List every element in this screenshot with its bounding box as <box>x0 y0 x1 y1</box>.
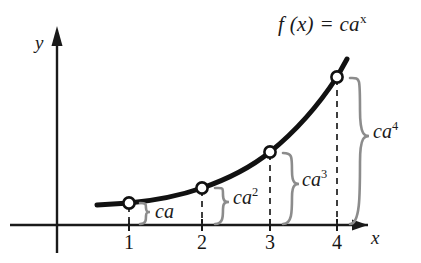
brace-label-ca-text: ca <box>155 200 174 222</box>
x-axis <box>10 220 368 231</box>
brace-label-ca2-text: ca <box>233 186 252 208</box>
brace-label-ca3-exponent: 3 <box>321 167 327 181</box>
brace-label-ca4: ca4 <box>373 121 398 141</box>
brace-ca2 <box>215 188 229 224</box>
brace-label-ca3: ca3 <box>302 169 327 189</box>
exponential-function-figure: f (x) = cax y x 1 2 3 4 ca ca2 ca3 ca4 <box>0 0 421 263</box>
brace-ca <box>140 203 150 224</box>
y-axis <box>52 26 63 253</box>
brace-label-ca4-exponent: 4 <box>392 119 398 133</box>
brace-ca3 <box>283 153 299 224</box>
x-tick-label-2: 2 <box>192 232 212 252</box>
function-label-text: f (x) = ca <box>278 12 360 36</box>
brace-label-ca2: ca2 <box>233 187 258 207</box>
brace-label-ca: ca <box>155 201 174 221</box>
x-axis-label: x <box>371 228 379 247</box>
x-tick-label-1: 1 <box>119 232 139 252</box>
function-label: f (x) = cax <box>278 14 367 35</box>
brace-ca4 <box>350 78 369 224</box>
brace-label-ca3-text: ca <box>302 168 321 190</box>
y-axis-label: y <box>35 33 43 52</box>
x-tick-label-4: 4 <box>327 232 347 252</box>
brace-label-ca2-exponent: 2 <box>252 185 258 199</box>
function-label-exponent: x <box>360 11 367 26</box>
x-tick-label-3: 3 <box>260 232 280 252</box>
figure-canvas <box>0 0 421 263</box>
brace-label-ca4-text: ca <box>373 120 392 142</box>
